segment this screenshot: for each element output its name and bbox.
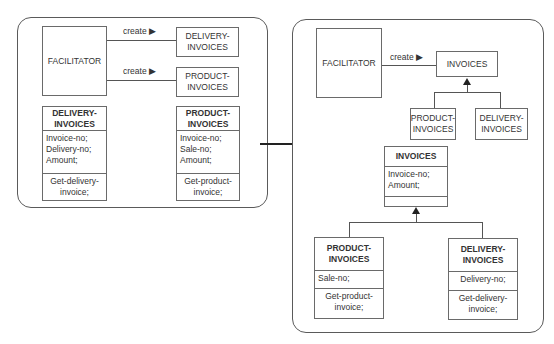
product-invoices-box-small: PRODUCT- INVOICES (410, 108, 456, 140)
create-label-product: create ▶ (123, 66, 156, 76)
class-delivery-invoices-left: DELIVERY- INVOICES Invoice-no; Delivery-… (42, 106, 107, 201)
class-methods: Get-delivery- invoice; (449, 291, 517, 319)
inheritance-drop-delivery (482, 222, 483, 238)
direction-arrow-icon: ▶ (149, 26, 156, 36)
class-methods (385, 197, 447, 206)
facilitator-label: FACILITATOR (48, 56, 101, 67)
create-relation-line-invoices (382, 65, 436, 66)
delivery-invoices-box-small: DELIVERY- INVOICES (475, 108, 528, 140)
class-attributes: Invoice-no; Amount; (385, 167, 447, 197)
inheritance-triangle-icon (463, 78, 471, 85)
class-methods: Get-product- invoice; (177, 174, 239, 200)
inheritance-stem-small (467, 85, 468, 92)
direction-arrow-icon: ▶ (416, 52, 423, 62)
inheritance-drop-product-small (434, 92, 435, 108)
class-delivery-invoices-subclass: DELIVERY- INVOICES Delivery-no; Get-deli… (448, 238, 518, 320)
create-relation-line-product (107, 80, 176, 81)
class-name: PRODUCT- INVOICES (315, 238, 383, 271)
product-invoices-box-left: PRODUCT- INVOICES (176, 67, 239, 97)
create-relation-line-delivery (107, 40, 176, 41)
inheritance-bar-small (434, 92, 500, 93)
facilitator-box-left: FACILITATOR (42, 26, 107, 96)
inheritance-bar (349, 222, 483, 223)
class-name: INVOICES (385, 147, 447, 167)
class-product-invoices-subclass: PRODUCT- INVOICES Sale-no; Get-product- … (314, 237, 384, 319)
class-name: PRODUCT- INVOICES (177, 107, 239, 131)
inheritance-triangle-icon (412, 207, 420, 214)
create-label-delivery: create ▶ (123, 26, 156, 36)
inheritance-drop-product (349, 222, 350, 237)
class-name: DELIVERY- INVOICES (449, 239, 517, 272)
class-attributes: Invoice-no; Sale-no; Amount; (177, 131, 239, 174)
delivery-invoices-box-left: DELIVERY- INVOICES (176, 27, 239, 57)
inheritance-stem (416, 214, 417, 222)
class-methods: Get-product- invoice; (315, 289, 383, 318)
class-methods: Get-delivery- invoice; (43, 174, 106, 200)
invoices-box-small: INVOICES (436, 51, 498, 77)
class-product-invoices-left: PRODUCT- INVOICES Invoice-no; Sale-no; A… (176, 106, 240, 201)
facilitator-box-right: FACILITATOR (316, 28, 382, 98)
class-invoices-superclass: INVOICES Invoice-no; Amount; (384, 146, 448, 207)
class-attributes: Invoice-no; Delivery-no; Amount; (43, 131, 106, 174)
class-attributes: Sale-no; (315, 271, 383, 289)
class-attributes: Delivery-no; (449, 272, 517, 291)
inheritance-drop-delivery-small (500, 92, 501, 108)
create-label-invoices: create ▶ (390, 52, 423, 62)
direction-arrow-icon: ▶ (149, 66, 156, 76)
class-name: DELIVERY- INVOICES (43, 107, 106, 131)
